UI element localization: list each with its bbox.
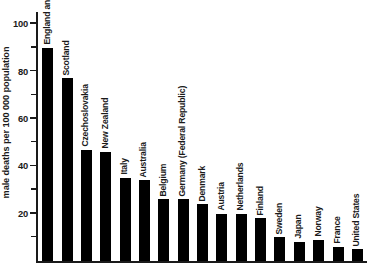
bar-category-label: Finland: [256, 186, 265, 216]
bar: Czechoslovakia: [81, 150, 92, 261]
bar: France: [333, 247, 344, 261]
bar-category-label: Belgium: [159, 163, 168, 196]
bar-slot: Denmark: [193, 12, 212, 261]
bar-category-label: Czechoslovakia: [82, 84, 91, 146]
bar: Denmark: [197, 204, 208, 261]
bar-category-label: Austria: [217, 182, 226, 211]
bar: Italy: [120, 178, 131, 261]
y-tick-minor: [31, 141, 36, 142]
bar-slot: Scotland: [57, 12, 76, 261]
y-tick-minor: [31, 236, 36, 237]
y-tick-major: 40: [30, 165, 36, 167]
bar: Sweden: [274, 237, 285, 261]
bar: Belgium: [158, 199, 169, 261]
y-tick-label: 100: [13, 18, 28, 29]
bar: Norway: [313, 240, 324, 261]
bar-slot: Japan: [290, 12, 309, 261]
bar-category-label: United States: [353, 193, 362, 246]
bar-category-label: Denmark: [198, 165, 207, 201]
y-tick-label: 40: [18, 160, 28, 171]
bar-category-label: Australia: [140, 142, 149, 177]
bar: Japan: [294, 242, 305, 261]
y-tick-minor: [31, 94, 36, 95]
bar-category-label: Netherlands: [237, 163, 246, 211]
bar-slot: Finland: [251, 12, 270, 261]
bar-slot: Czechoslovakia: [77, 12, 96, 261]
bar-series: England and WalesScotlandCzechoslovakiaN…: [38, 12, 367, 261]
bar-slot: Italy: [115, 12, 134, 261]
bar: Germany (Federal Republic): [178, 199, 189, 261]
bar: Australia: [139, 180, 150, 261]
bar-slot: Austria: [212, 12, 231, 261]
bar: New Zealand: [100, 152, 111, 261]
y-tick-label: 20: [18, 207, 28, 218]
y-tick-label: 60: [18, 112, 28, 123]
bar-slot: New Zealand: [96, 12, 115, 261]
bar-slot: Sweden: [270, 12, 289, 261]
bar-slot: United States: [348, 12, 367, 261]
bar: England and Wales: [42, 48, 53, 261]
bar-slot: Germany (Federal Republic): [174, 12, 193, 261]
y-tick-minor: [31, 46, 36, 47]
bar-category-label: Germany (Federal Republic): [179, 86, 188, 197]
bar-category-label: Italy: [121, 159, 130, 175]
bar: United States: [352, 249, 363, 261]
bar-slot: Norway: [309, 12, 328, 261]
chart-figure: male deaths per 100 000 population 20406…: [0, 0, 371, 271]
bar: Scotland: [62, 78, 73, 261]
y-tick-label: 80: [18, 65, 28, 76]
y-tick-major: 80: [30, 70, 36, 72]
bar: Finland: [255, 218, 266, 261]
bar-category-label: Norway: [314, 207, 323, 237]
bar-category-label: England and Wales: [43, 0, 52, 45]
y-axis-title: male deaths per 100 000 population: [1, 0, 17, 258]
bar-category-label: New Zealand: [101, 98, 110, 149]
bar: Netherlands: [236, 214, 247, 261]
y-tick-major: 60: [30, 117, 36, 119]
bar-category-label: France: [333, 216, 342, 243]
bar-category-label: Scotland: [62, 40, 71, 75]
y-tick-major: 20: [30, 212, 36, 214]
bar-slot: Netherlands: [232, 12, 251, 261]
bar-slot: Belgium: [154, 12, 173, 261]
bar-slot: Australia: [135, 12, 154, 261]
bar-category-label: Japan: [295, 215, 304, 239]
x-axis-line: [36, 261, 367, 263]
bar-slot: England and Wales: [38, 12, 57, 261]
y-tick-minor: [31, 188, 36, 189]
bar: Austria: [216, 214, 227, 261]
bar-slot: France: [328, 12, 347, 261]
plot-area: 20406080100 England and WalesScotlandCze…: [36, 12, 367, 263]
bar-category-label: Sweden: [275, 203, 284, 235]
y-tick-major: 100: [30, 22, 36, 24]
